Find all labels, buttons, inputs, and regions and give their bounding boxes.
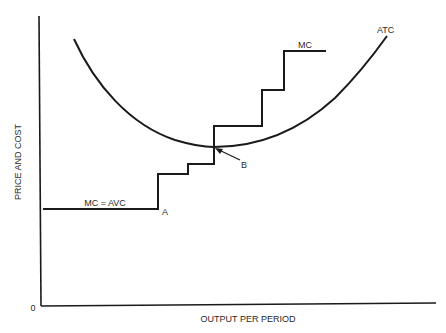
atc-label: ATC xyxy=(377,25,395,35)
atc-curve xyxy=(74,36,387,147)
origin-label: 0 xyxy=(30,303,35,313)
mc-label: MC xyxy=(298,40,312,50)
mc-avc-label: MC = AVC xyxy=(84,198,126,208)
point-b-label: B xyxy=(241,160,247,170)
point-b-arrow xyxy=(219,150,240,160)
y-axis-label: PRICE AND COST xyxy=(13,123,23,200)
cost-curves-chart: PRICE AND COST OUTPUT PER PERIOD 0 MC = … xyxy=(0,0,446,333)
y-axis xyxy=(39,16,41,306)
point-a-label: A xyxy=(162,207,168,217)
mc-step-curve xyxy=(43,51,326,209)
x-axis-label: OUTPUT PER PERIOD xyxy=(201,314,296,324)
x-axis xyxy=(41,303,436,306)
